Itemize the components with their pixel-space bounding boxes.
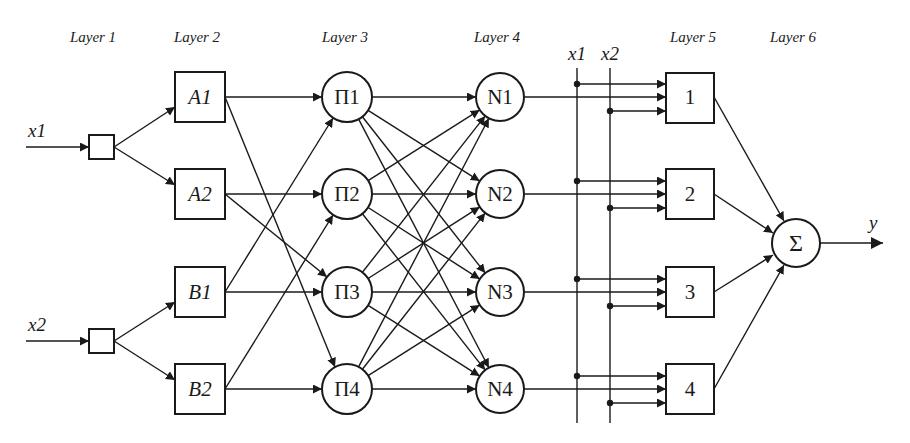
input-node-x1 (89, 135, 114, 159)
input-x2: x2 (26, 314, 114, 353)
layer2-nodes: A1 A2 B1 B2 (175, 72, 225, 414)
rule-node-P2: Π2 (322, 169, 372, 219)
svg-text:N4: N4 (487, 377, 513, 401)
anfis-diagram: Layer 1 Layer 2 Layer 3 Layer 4 Layer 5 … (0, 0, 910, 443)
membership-node-A2: A2 (175, 169, 225, 219)
svg-text:A2: A2 (186, 182, 212, 206)
layer4-nodes: N1 N2 N3 N4 (476, 73, 524, 413)
svg-text:4: 4 (685, 377, 696, 401)
edges-layer3-layer4 (359, 97, 489, 389)
input-label-x1: x1 (27, 120, 46, 141)
svg-text:A1: A1 (186, 85, 211, 109)
membership-node-B1: B1 (175, 267, 225, 317)
edges-layer2-layer3 (225, 97, 335, 389)
bus-label-x2: x2 (600, 43, 619, 64)
svg-text:B2: B2 (188, 377, 212, 401)
svg-text:Π4: Π4 (334, 377, 360, 401)
consequent-node-1: 1 (666, 73, 714, 123)
svg-text:N3: N3 (487, 280, 513, 304)
svg-text:N2: N2 (487, 182, 513, 206)
input-bus: x1 x2 (567, 43, 666, 423)
layer-labels: Layer 1 Layer 2 Layer 3 Layer 4 Layer 5 … (69, 29, 817, 45)
edges-layer1-layer2 (114, 107, 175, 380)
consequent-node-4: 4 (666, 364, 714, 414)
svg-text:3: 3 (685, 280, 696, 304)
input-node-x2 (89, 329, 114, 353)
sum-node: Σ (772, 219, 820, 267)
membership-node-A1: A1 (175, 72, 225, 122)
input-x1: x1 (26, 120, 114, 159)
consequent-node-2: 2 (666, 169, 714, 219)
svg-text:Π3: Π3 (334, 280, 360, 304)
consequent-node-3: 3 (666, 267, 714, 317)
layer5-nodes: 1 2 3 4 (666, 73, 714, 414)
sum-symbol: Σ (789, 230, 803, 256)
layer-label-3: Layer 3 (321, 29, 368, 45)
bus-label-x1: x1 (567, 43, 586, 64)
svg-text:B1: B1 (188, 280, 211, 304)
membership-node-B2: B2 (175, 364, 225, 414)
rule-node-P4: Π4 (322, 364, 372, 414)
svg-text:Π2: Π2 (334, 182, 360, 206)
layer-label-5: Layer 5 (669, 29, 717, 45)
norm-node-N1: N1 (476, 73, 524, 121)
layer-label-2: Layer 2 (173, 29, 221, 45)
norm-node-N4: N4 (476, 365, 524, 413)
input-label-x2: x2 (27, 314, 46, 335)
rule-node-P1: Π1 (322, 72, 372, 122)
layer-label-6: Layer 6 (769, 29, 817, 45)
svg-text:1: 1 (685, 85, 696, 109)
rule-node-P3: Π3 (322, 267, 372, 317)
svg-text:2: 2 (685, 182, 696, 206)
norm-node-N3: N3 (476, 268, 524, 316)
norm-node-N2: N2 (476, 170, 524, 218)
output-y: y (820, 212, 883, 243)
svg-text:Π1: Π1 (334, 85, 360, 109)
layer-label-4: Layer 4 (473, 29, 521, 45)
svg-text:N1: N1 (487, 85, 513, 109)
layer-label-1: Layer 1 (69, 29, 116, 45)
edges-layer4-layer5 (524, 97, 666, 389)
output-label-y: y (867, 212, 878, 233)
